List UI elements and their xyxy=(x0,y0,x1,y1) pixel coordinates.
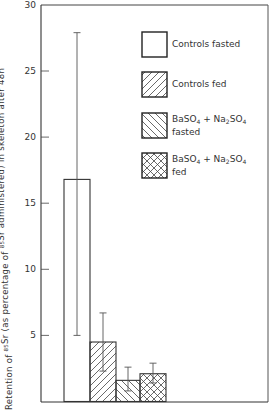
legend-item: Controls fasted xyxy=(142,32,240,57)
y-tick-label: 10 xyxy=(25,264,37,274)
y-axis-ticks: 51015202530 xyxy=(25,0,49,340)
legend-label: BaSO4 + Na2SO4 xyxy=(172,114,246,125)
y-tick-label: 5 xyxy=(30,330,36,340)
legend-label-line2: fasted xyxy=(172,127,200,137)
legend-item: BaSO4 + Na2SO4fed xyxy=(142,153,246,178)
legend: Controls fastedControls fedBaSO4 + Na2SO… xyxy=(142,32,246,178)
y-axis-title: Retention of 85Sr (as percentage of 85Sr… xyxy=(0,68,14,410)
legend-label: Controls fasted xyxy=(172,39,240,49)
y-tick-label: 30 xyxy=(25,0,37,10)
legend-item: Controls fed xyxy=(142,72,227,97)
legend-label: Controls fed xyxy=(172,79,227,89)
y-tick-label: 25 xyxy=(25,66,36,76)
legend-label-line2: fed xyxy=(172,167,186,177)
y-tick-label: 15 xyxy=(25,198,36,208)
legend-swatch xyxy=(142,32,167,57)
legend-item: BaSO4 + Na2SO4fasted xyxy=(142,113,246,138)
legend-label: BaSO4 + Na2SO4 xyxy=(172,154,246,165)
y-axis-label: Retention of 85Sr (as percentage of 85Sr… xyxy=(0,68,14,410)
legend-swatch xyxy=(142,153,167,178)
legend-swatch xyxy=(142,72,167,97)
legend-swatch xyxy=(142,113,167,138)
bar-chart: 51015202530 Retention of 85Sr (as percen… xyxy=(0,0,272,413)
y-tick-label: 20 xyxy=(25,132,37,142)
